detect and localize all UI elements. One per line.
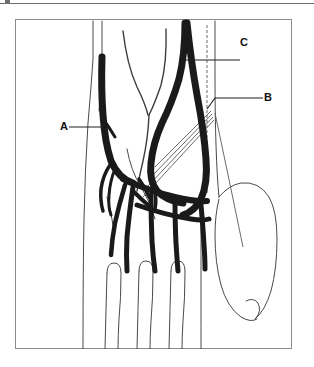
hand-outline-thumb-tip <box>246 299 260 318</box>
vein-cephalic-radial <box>151 23 185 203</box>
tendon-fork-right <box>149 29 166 115</box>
label-b: B <box>264 92 272 103</box>
hand-outline-thumb-outer <box>219 183 277 319</box>
vein-metacarpal-3 <box>175 199 178 271</box>
hand-outline-finger-2-edge <box>137 271 139 349</box>
vein-metacarpal-1 <box>127 187 134 271</box>
top-horizontal-rule <box>0 3 314 4</box>
vein-basilic-ulnar <box>102 57 133 183</box>
hand-outline-finger-3 <box>171 261 185 349</box>
hand-outline-right-border <box>215 21 219 197</box>
vein-ulnar-tributary-2 <box>109 169 115 215</box>
hand-outline-finger-2 <box>139 261 153 349</box>
tendon-fork-left <box>123 31 148 115</box>
vein-branch-to-finger-1 <box>111 185 125 255</box>
label-a: A <box>60 121 68 132</box>
label-c: C <box>240 37 248 48</box>
hand-outline-finger-3-edge <box>169 271 171 349</box>
tendon-fork-group <box>123 29 166 191</box>
guide-line-descending <box>215 113 243 247</box>
hand-outline-thumb-inner <box>215 199 257 321</box>
hand-outline-left-border <box>83 21 93 349</box>
hand-vein-diagram <box>15 19 292 349</box>
vein-metacarpal-4 <box>201 205 205 269</box>
hand-outline-finger-1-edge <box>105 273 107 349</box>
vein-communicating-3 <box>154 189 156 209</box>
figure-page: A B C <box>0 0 314 367</box>
hand-outline-finger-1 <box>107 263 121 349</box>
